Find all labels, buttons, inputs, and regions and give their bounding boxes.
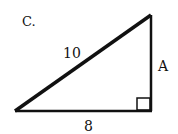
hypotenuse (15, 15, 151, 111)
triangle-diagram: C. 10 A 8 (0, 0, 178, 134)
vertical-leg-label: A (157, 58, 169, 74)
base-label: 8 (84, 118, 93, 134)
hypotenuse-label: 10 (63, 45, 81, 61)
right-angle-marker (137, 98, 150, 110)
corner-label: C. (22, 14, 36, 29)
